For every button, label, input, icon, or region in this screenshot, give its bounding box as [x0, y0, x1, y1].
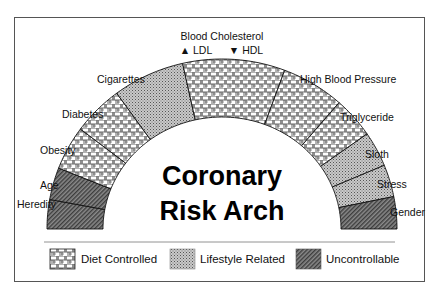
ldl-label: ▲ LDL: [180, 44, 213, 56]
diet-swatch: [50, 249, 75, 269]
sloth-label: Sloth: [365, 148, 389, 160]
diagram-title-line-1: Coronary: [162, 161, 282, 191]
age-label: Age: [40, 179, 59, 191]
diagram-title-line-2: Risk Arch: [159, 196, 284, 226]
triglyceride-label: Triglyceride: [340, 111, 394, 123]
high-blood-pressure-label: High Blood Pressure: [300, 73, 396, 85]
legend-item-uncontrollable: Uncontrollable: [296, 249, 400, 269]
legend-item-diet: Diet Controlled: [50, 249, 157, 269]
legend-label-diet: Diet Controlled: [81, 253, 157, 265]
legend-label-lifestyle: Lifestyle Related: [200, 253, 285, 265]
obesity-label: Obesity: [40, 144, 76, 156]
uncontrollable-swatch: [296, 249, 321, 269]
gender-label: Gender: [390, 206, 426, 218]
legend-item-lifestyle: Lifestyle Related: [170, 249, 285, 269]
legend: Diet Controlled Lifestyle Related Uncont…: [50, 249, 400, 269]
lifestyle-swatch: [170, 249, 195, 269]
stress-label: Stress: [377, 178, 407, 190]
coronary-risk-arch-diagram: Blood Cholesterol ▲ LDL ▼ HDL Cigarettes…: [0, 0, 439, 296]
hdl-label: ▼ HDL: [229, 44, 263, 56]
heredity-label: Heredity: [17, 198, 57, 210]
blood-cholesterol-label: Blood Cholesterol: [181, 30, 264, 42]
cigarettes-label: Cigarettes: [97, 73, 145, 85]
legend-label-uncontrollable: Uncontrollable: [326, 253, 400, 265]
diabetes-label: Diabetes: [62, 108, 103, 120]
